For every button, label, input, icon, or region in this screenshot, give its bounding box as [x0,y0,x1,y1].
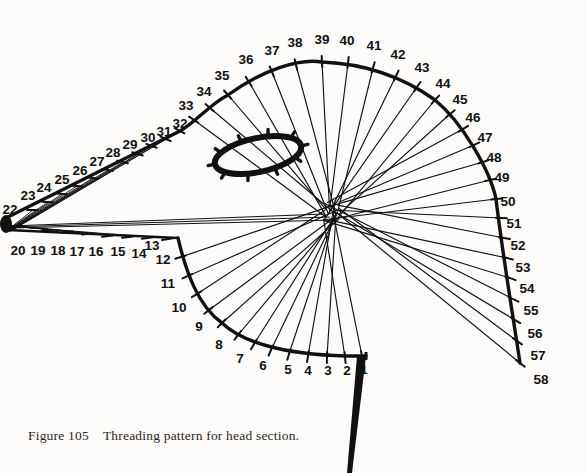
tick-mark-25 [71,185,82,186]
thread-line-58 [336,212,520,363]
position-label-38: 38 [287,35,303,50]
position-label-40: 40 [339,33,354,48]
position-label-26: 26 [72,163,88,178]
thread-line-56 [334,212,515,320]
position-label-51: 51 [506,216,522,231]
position-label-3: 3 [324,363,332,378]
position-label-48: 48 [486,150,502,165]
position-label-30: 30 [140,130,155,145]
thread-line-52 [338,205,504,238]
position-label-42: 42 [390,47,405,62]
position-label-18: 18 [50,243,66,258]
position-label-14: 14 [131,246,147,261]
thread-line-1 [333,212,362,356]
position-label-22: 22 [2,202,17,217]
tick-mark-18 [82,234,93,235]
thread-line-44 [336,100,435,220]
tick-mark-24 [56,194,67,195]
figure-caption: Figure 105Threading pattern for head sec… [28,428,299,444]
position-label-2: 2 [343,363,351,378]
position-label-35: 35 [214,68,230,83]
tick-mark-17 [102,235,113,236]
position-label-25: 25 [54,172,70,187]
position-label-54: 54 [519,281,535,296]
position-label-16: 16 [88,244,104,259]
position-label-37: 37 [264,43,279,58]
position-label-32: 32 [172,116,187,131]
position-label-31: 31 [156,124,172,139]
thread-line-51 [335,210,501,218]
tick-mark-19 [62,232,73,233]
position-label-5: 5 [284,362,292,377]
position-label-20: 20 [10,243,25,258]
position-label-41: 41 [366,38,382,53]
position-label-47: 47 [477,130,492,145]
thread-line-55 [325,204,513,299]
thread-line-10 [209,217,335,310]
position-label-4: 4 [304,363,312,378]
position-label-58: 58 [533,372,549,387]
position-label-8: 8 [215,337,223,352]
position-label-1: 1 [360,362,368,377]
position-label-34: 34 [196,84,212,99]
position-label-15: 15 [110,244,126,259]
position-label-49: 49 [494,170,509,185]
position-label-55: 55 [523,303,539,318]
position-label-57: 57 [530,348,545,363]
threading-diagram: 1234567891011121314151617181920222324252… [0,0,586,473]
apex-to-hub-line-2 [10,217,330,227]
position-label-46: 46 [465,110,481,125]
thread-line-36 [249,82,326,216]
tick-mark-16 [122,236,133,237]
apex-marker-group [0,215,12,233]
position-label-9: 9 [195,319,203,334]
thread-line-54 [324,220,510,278]
tick-mark-2 [345,352,346,363]
figure-caption-text: Threading pattern for head section. [103,428,299,443]
figure-caption-label: Figure 105 [28,428,89,443]
position-label-52: 52 [510,238,525,253]
position-label-7: 7 [236,351,244,366]
thread-lines-group [181,62,520,363]
position-label-17: 17 [69,244,84,259]
position-label-23: 23 [20,188,36,203]
thread-line-6 [271,212,337,350]
thread-line-53 [330,220,507,258]
position-label-19: 19 [30,243,45,258]
thread-line-9 [222,219,339,323]
tick-mark-38 [295,59,298,70]
position-label-44: 44 [435,76,451,91]
position-label-29: 29 [122,137,137,152]
position-label-12: 12 [155,252,170,267]
tick-mark-39 [322,56,323,67]
position-label-36: 36 [238,52,254,67]
thread-line-48 [329,162,483,207]
tick-mark-20 [42,230,53,231]
position-labels-group: 1234567891011121314151617181920222324252… [2,32,549,387]
position-label-13: 13 [144,238,160,253]
figure-page: 1234567891011121314151617181920222324252… [0,0,586,473]
position-label-6: 6 [259,358,267,373]
position-label-45: 45 [452,92,468,107]
tick-marks-group [27,56,525,367]
position-label-39: 39 [314,32,329,47]
position-label-11: 11 [161,276,176,291]
apex-marker [0,215,12,233]
position-label-50: 50 [500,194,515,209]
tick-mark-40 [347,57,348,68]
thread-line-57 [339,208,517,341]
position-label-53: 53 [515,260,531,275]
thread-line-43 [325,87,417,219]
thread-line-38 [296,65,336,213]
position-label-24: 24 [36,180,52,195]
position-label-56: 56 [527,326,543,341]
thread-line-35 [228,95,326,210]
position-label-43: 43 [414,60,430,75]
position-label-33: 33 [178,98,194,113]
thread-line-39 [322,62,329,206]
outline-lower-arc [178,238,366,356]
position-label-28: 28 [105,145,121,160]
position-label-27: 27 [89,154,104,169]
position-label-10: 10 [171,300,186,315]
